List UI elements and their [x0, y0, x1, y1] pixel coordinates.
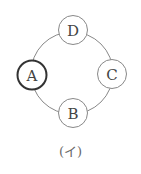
figure-caption: (イ) [0, 141, 141, 160]
node-D: D [59, 16, 88, 45]
node-label-A: A [26, 67, 38, 85]
node-B: B [59, 99, 88, 128]
node-label-B: B [67, 105, 78, 123]
node-label-C: C [106, 66, 117, 84]
node-label-D: D [67, 22, 79, 40]
node-C: C [98, 60, 127, 89]
node-A: A [18, 61, 47, 90]
